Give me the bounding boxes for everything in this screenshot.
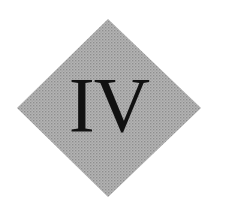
roman-numeral-emblem: IV [0,0,225,208]
emblem-numeral: IV [0,66,218,144]
